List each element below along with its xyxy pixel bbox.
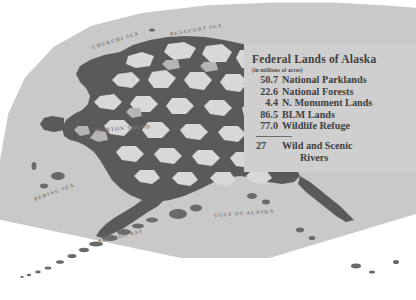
legend-entry-national-parklands: 50.7National Parklands: [252, 74, 412, 86]
legend-label-blm-lands: BLM Lands: [282, 109, 335, 120]
legend-label-monument-lands: N. Monument Lands: [282, 97, 372, 108]
legend-value-wild-scenic-rivers: 27: [256, 140, 282, 152]
legend-label-wildlife-refuge: Wildlife Refuge: [282, 120, 350, 131]
legend-entry-wildlife-refuge: 77.0Wildlife Refuge: [252, 120, 412, 132]
legend-label-wild-scenic-rivers-line1: Wild and Scenic: [282, 140, 353, 151]
legend-entry-national-forests: 22.6National Forests: [252, 86, 412, 98]
seward-peninsula: [40, 116, 64, 132]
legend-value-wildlife-refuge: 77.0: [252, 120, 278, 132]
legend-subtitle: (in millions of acres): [252, 66, 412, 74]
legend-block: Federal Lands of Alaska (in millions of …: [252, 53, 412, 164]
legend-entry-monument-lands: 4.4N. Monument Lands: [252, 97, 412, 109]
legend-entry-wild-scenic-rivers: 27Wild and Scenic: [252, 140, 412, 152]
legend-title: Federal Lands of Alaska: [252, 53, 412, 66]
legend-value-monument-lands: 4.4: [252, 97, 278, 109]
southeast-panhandle: [298, 176, 354, 222]
legend-entry-blm-lands: 86.5BLM Lands: [252, 109, 412, 121]
legend-label-national-parklands: National Parklands: [282, 74, 367, 85]
legend-label-national-forests: National Forests: [282, 86, 353, 97]
legend-value-national-forests: 22.6: [252, 86, 278, 98]
aleutian-islands: [20, 217, 158, 278]
legend-divider: [256, 136, 292, 137]
legend-value-blm-lands: 86.5: [252, 109, 278, 121]
map-figure: CHUKCHI SEA BEAUFORT SEA NORTON SOUND BE…: [0, 0, 416, 300]
legend-label-wild-scenic-rivers-line2: Rivers: [300, 152, 412, 164]
legend-value-national-parklands: 50.7: [252, 74, 278, 86]
